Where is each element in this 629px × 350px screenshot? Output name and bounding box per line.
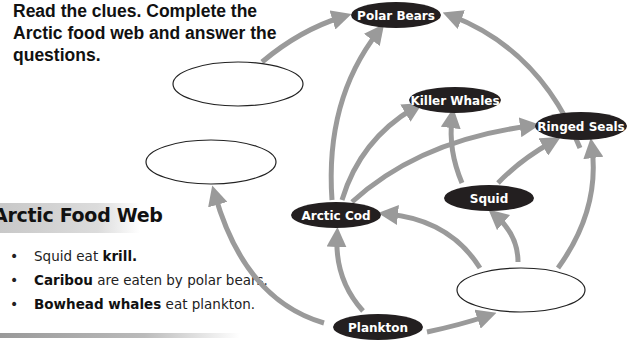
arrow-squid-to-ringed-seals <box>498 142 552 183</box>
blank-node-top-left[interactable] <box>173 62 303 106</box>
node-ringed-seals: Ringed Seals <box>535 112 627 140</box>
arrow-blank3-to-ringed-seals <box>558 148 593 268</box>
arrow-cod-to-killer-whales <box>342 108 414 200</box>
blank-node-middle-left[interactable] <box>146 140 276 184</box>
svg-text:Plankton: Plankton <box>348 321 408 335</box>
node-polar-bears: Polar Bears <box>351 2 441 28</box>
arrow-blank1-to-polar-bears <box>262 17 342 62</box>
blank-node-bottom-right[interactable] <box>457 268 585 312</box>
node-squid: Squid <box>444 185 534 211</box>
node-arctic-cod: Arctic Cod <box>291 202 381 228</box>
food-web-diagram: Polar Bears Killer Whales Ringed Seals S… <box>0 0 629 350</box>
arrow-blank3-to-squid <box>496 216 518 262</box>
svg-text:Ringed Seals: Ringed Seals <box>537 120 625 134</box>
svg-text:Squid: Squid <box>470 192 508 206</box>
svg-text:Arctic Cod: Arctic Cod <box>301 209 370 223</box>
arrow-blank3-to-cod <box>388 214 480 268</box>
svg-text:Killer Whales: Killer Whales <box>410 94 499 108</box>
svg-text:Polar Bears: Polar Bears <box>357 9 435 23</box>
arrow-plankton-to-blank3 <box>427 316 487 332</box>
arrow-cod-to-polar-bears <box>331 32 378 200</box>
node-plankton: Plankton <box>333 314 423 340</box>
arrow-squid-to-killer-whales <box>451 118 462 183</box>
node-killer-whales: Killer Whales <box>409 87 501 113</box>
arrow-plankton-to-cod <box>337 237 363 311</box>
